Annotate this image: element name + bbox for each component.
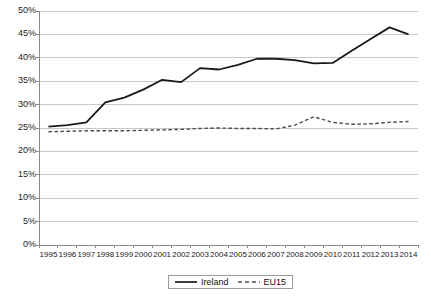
x-axis-ticks <box>39 245 418 248</box>
chart-legend: Ireland EU15 <box>168 275 293 289</box>
series-line-ireland <box>48 27 408 126</box>
x-tick-label: 2014 <box>397 250 421 260</box>
legend-item-ireland: Ireland <box>175 278 229 287</box>
x-axis: 1995199619971998199920002001200220032004… <box>39 250 418 264</box>
legend-label-eu15: EU15 <box>264 278 287 287</box>
legend-line-solid-icon <box>175 279 197 285</box>
series-line-eu15 <box>48 117 408 132</box>
legend-label-ireland: Ireland <box>201 278 229 287</box>
legend-line-dashed-icon <box>238 279 260 285</box>
line-chart: 50%45%40%35%30%25%20%15%10%5%0% 19951996… <box>0 0 431 298</box>
legend-item-eu15: EU15 <box>238 278 287 287</box>
